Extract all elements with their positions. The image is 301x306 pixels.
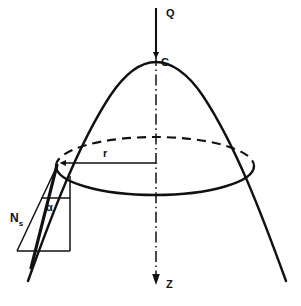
radius-label-r: r bbox=[103, 147, 108, 159]
force-label-N-subscript: s bbox=[19, 219, 24, 228]
ring-front-arc-solid bbox=[56, 166, 254, 195]
axis-arrowhead bbox=[152, 274, 160, 285]
vertical-symmetry-axis: Z bbox=[152, 55, 173, 290]
horizontal-circular-ring bbox=[56, 137, 254, 195]
diagram-canvas: Q Z r bbox=[0, 0, 301, 306]
apex-label-C: C bbox=[161, 56, 169, 68]
dome-outline-curve bbox=[28, 62, 286, 281]
force-label-N-main: N bbox=[10, 211, 19, 225]
apex-load-arrow-group: Q bbox=[156, 7, 175, 56]
apex-point-group: C bbox=[161, 56, 169, 68]
angle-label-alpha: α bbox=[46, 201, 53, 213]
shell-diagram-svg: Q Z r bbox=[0, 0, 301, 306]
force-component-triangle: α Ns bbox=[10, 165, 70, 268]
force-label-N: Ns bbox=[10, 211, 24, 228]
parabolic-dome-meridian bbox=[28, 62, 286, 281]
axis-label-Z: Z bbox=[166, 278, 173, 290]
load-label-Q: Q bbox=[166, 7, 175, 19]
